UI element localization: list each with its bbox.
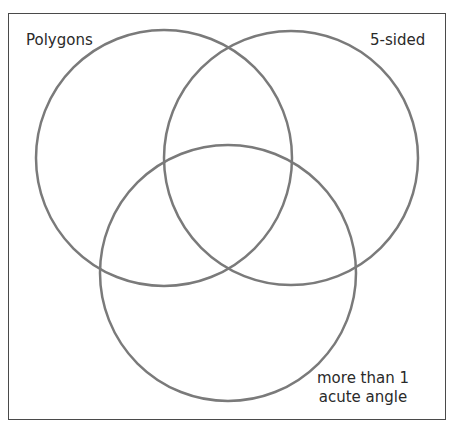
polygons-label: Polygons: [26, 31, 93, 49]
five-sided-label: 5-sided: [370, 31, 425, 49]
venn-diagram: [0, 0, 455, 432]
acute-angle-circle: [100, 145, 356, 401]
acute-angle-label-line1: more than 1: [317, 369, 409, 388]
acute-angle-label: more than 1 acute angle: [317, 369, 409, 407]
acute-angle-label-line2: acute angle: [317, 388, 409, 407]
